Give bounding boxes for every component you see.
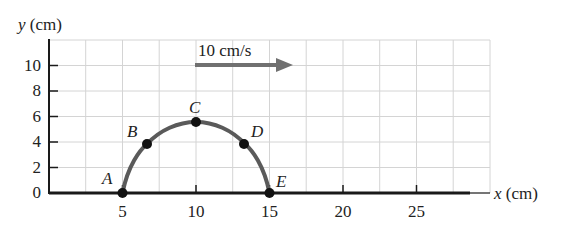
point-d-marker [239, 139, 249, 149]
point-b-label: B [127, 122, 138, 141]
point-e-label: E [275, 172, 287, 191]
ytick-8: 8 [33, 81, 42, 100]
point-c-label: C [189, 98, 201, 117]
ytick-6: 6 [33, 107, 42, 126]
y-tick-labels: 10 8 6 4 2 0 [24, 56, 42, 202]
point-b-marker [142, 139, 152, 149]
xtick-5: 5 [118, 202, 127, 221]
ytick-0: 0 [33, 183, 42, 202]
point-e-marker [265, 188, 275, 198]
ytick-10: 10 [24, 56, 41, 75]
x-axis-title-text: x (cm) [493, 184, 538, 203]
point-a-marker [118, 188, 128, 198]
xtick-20: 20 [335, 202, 352, 221]
velocity-arrow [195, 58, 293, 72]
xtick-25: 25 [408, 202, 425, 221]
trajectory-diagram: A B C D E 10 cm/s 10 8 6 4 2 0 5 10 15 2… [0, 0, 577, 226]
grid [49, 40, 490, 193]
x-axis-title: x (cm) [493, 184, 538, 203]
point-a-label: A [101, 169, 113, 188]
point-c-marker [191, 117, 201, 127]
ytick-2: 2 [33, 158, 42, 177]
point-d-label: D [250, 122, 264, 141]
velocity-label: 10 cm/s [198, 41, 251, 60]
x-tick-labels: 5 10 15 20 25 [118, 202, 425, 221]
y-axis [49, 39, 58, 194]
y-axis-title: y (cm) [16, 15, 62, 34]
y-axis-title-text: y (cm) [16, 15, 62, 34]
xtick-10: 10 [188, 202, 205, 221]
xtick-15: 15 [261, 202, 278, 221]
ytick-4: 4 [33, 132, 42, 151]
